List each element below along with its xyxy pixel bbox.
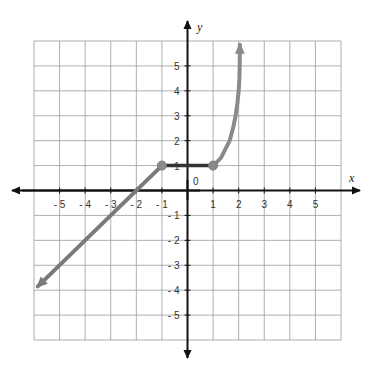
y-tick-label: 2 <box>174 136 180 147</box>
x-tick-label: - 2 <box>130 199 142 210</box>
x-tick-label: 1 <box>210 199 216 210</box>
x-tick-label: 5 <box>313 199 319 210</box>
y-tick-label: - 2 <box>168 235 180 246</box>
y-tick-label: - 5 <box>168 310 180 321</box>
graph-segment <box>38 166 162 287</box>
y-tick-label: 5 <box>174 61 180 72</box>
y-tick-label: - 4 <box>168 285 180 296</box>
closed-point <box>209 161 218 170</box>
x-tick-label: 2 <box>236 199 242 210</box>
x-tick-label: - 3 <box>105 199 117 210</box>
closed-point <box>157 161 166 170</box>
x-tick-label: - 5 <box>54 199 66 210</box>
y-tick-label: - 3 <box>168 260 180 271</box>
y-tick-label: 4 <box>174 86 180 97</box>
graph-segment <box>213 45 240 166</box>
x-axis-label: x <box>348 171 355 185</box>
coordinate-plane: - 5- 4- 3- 2- 11234554321- 1- 2- 3- 4- 5… <box>0 0 374 370</box>
x-tick-label: 4 <box>287 199 293 210</box>
y-tick-label: - 1 <box>168 210 180 221</box>
x-tick-label: - 4 <box>79 199 91 210</box>
axes <box>12 21 360 358</box>
x-tick-label: - 1 <box>156 199 168 210</box>
y-axis-label: y <box>196 20 203 34</box>
x-tick-label: 3 <box>261 199 267 210</box>
origin-label: 0 <box>193 176 199 187</box>
y-tick-label: 3 <box>174 111 180 122</box>
